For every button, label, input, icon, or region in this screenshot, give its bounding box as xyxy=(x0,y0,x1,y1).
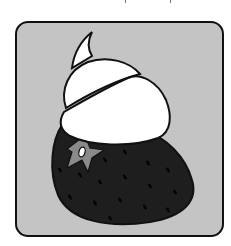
top-marks xyxy=(125,0,171,3)
illustration xyxy=(0,0,231,246)
strawberry-cream-illustration xyxy=(0,0,231,246)
